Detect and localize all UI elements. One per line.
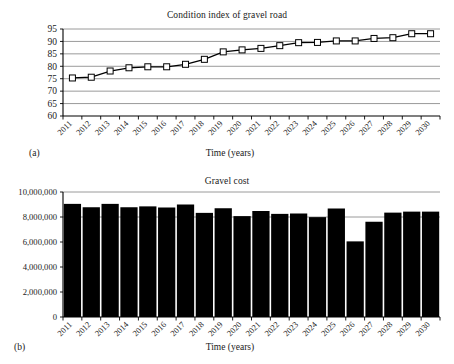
x-tick-label: 2018	[188, 119, 206, 137]
y-tick-label: 65	[48, 99, 58, 109]
bar	[252, 211, 269, 317]
x-tick-label: 2014	[112, 118, 131, 137]
x-tick-label: 2029	[395, 119, 413, 137]
bar	[196, 213, 213, 317]
x-axis-title-b: Time (years)	[150, 342, 310, 352]
bar	[347, 241, 364, 317]
x-tick-label: 2024	[301, 118, 320, 137]
x-tick-label: 2028	[376, 119, 394, 137]
data-point-marker	[69, 75, 75, 81]
panel-letter-a: (a)	[29, 148, 40, 158]
x-tick-label: 2020	[225, 119, 243, 137]
x-tick-label: 2016	[150, 119, 168, 137]
x-tick-label: 2026	[338, 119, 356, 137]
bar	[177, 205, 194, 318]
data-point-marker	[145, 64, 151, 70]
bar	[271, 214, 288, 317]
x-tick-label: 2027	[357, 320, 375, 338]
line-chart-plot: 6065707580859095201120122013201420152016…	[0, 0, 454, 170]
bar	[365, 222, 382, 317]
bar	[233, 216, 250, 317]
bar	[384, 213, 401, 317]
x-tick-label: 2017	[169, 320, 187, 338]
data-point-marker	[183, 61, 189, 67]
x-tick-label: 2025	[320, 119, 338, 137]
x-tick-label: 2026	[338, 320, 356, 338]
figure-a-condition-index: Condition index of gravel road 606570758…	[0, 0, 454, 170]
data-point-marker	[258, 45, 264, 51]
x-tick-label: 2016	[150, 320, 168, 338]
x-tick-label: 2024	[301, 319, 320, 338]
y-tick-label: 6,000,000	[23, 237, 57, 247]
x-tick-label: 2030	[414, 320, 432, 338]
bar	[403, 212, 420, 317]
y-tick-label: 10,000,000	[18, 187, 57, 197]
bar	[290, 214, 307, 318]
y-tick-label: 70	[48, 86, 58, 96]
data-point-marker	[220, 49, 226, 55]
x-tick-label: 2025	[320, 320, 338, 338]
data-point-marker	[88, 74, 94, 80]
bar	[328, 209, 345, 318]
data-point-marker	[428, 31, 434, 37]
panel-letter-b: (b)	[14, 342, 25, 352]
data-point-marker	[371, 35, 377, 41]
x-tick-label: 2021	[244, 119, 262, 137]
x-tick-label: 2017	[169, 119, 187, 137]
x-tick-label: 2014	[112, 319, 131, 338]
data-point-marker	[239, 47, 245, 53]
bar	[139, 206, 156, 317]
bar-chart-plot: 02,000,0004,000,0006,000,0008,000,00010,…	[0, 172, 454, 364]
bar	[83, 207, 100, 317]
x-tick-label: 2022	[263, 119, 281, 137]
x-tick-label: 2015	[131, 119, 149, 137]
x-tick-label: 2029	[395, 320, 413, 338]
x-tick-label: 2028	[376, 320, 394, 338]
x-tick-label: 2018	[188, 320, 206, 338]
bar	[309, 217, 326, 317]
bar	[102, 204, 119, 317]
x-tick-label: 2013	[93, 119, 111, 137]
data-point-marker	[333, 38, 339, 44]
data-point-marker	[164, 64, 170, 70]
x-tick-label: 2015	[131, 320, 149, 338]
y-tick-label: 60	[48, 111, 58, 121]
data-point-marker	[107, 68, 113, 74]
x-tick-label: 2027	[357, 119, 375, 137]
x-tick-label: 2021	[244, 320, 262, 338]
x-tick-label: 2013	[93, 320, 111, 338]
x-axis-title-a: Time (years)	[150, 148, 310, 158]
y-tick-label: 90	[48, 37, 58, 47]
data-point-marker	[126, 65, 132, 71]
data-point-marker	[352, 38, 358, 44]
x-tick-label: 2011	[56, 119, 74, 137]
data-point-marker	[201, 56, 207, 62]
y-tick-label: 95	[48, 24, 58, 34]
y-tick-label: 0	[53, 312, 57, 322]
y-tick-label: 8,000,000	[23, 212, 57, 222]
x-tick-label: 2023	[282, 320, 300, 338]
bar	[158, 208, 175, 318]
data-point-marker	[296, 40, 302, 46]
bar	[422, 212, 439, 317]
bar	[64, 204, 81, 317]
y-tick-label: 85	[48, 49, 58, 59]
y-tick-label: 4,000,000	[23, 262, 57, 272]
x-tick-label: 2023	[282, 119, 300, 137]
x-tick-label: 2019	[206, 119, 224, 137]
data-point-marker	[390, 35, 396, 41]
data-point-marker	[314, 39, 320, 45]
x-tick-label: 2020	[225, 320, 243, 338]
x-tick-label: 2022	[263, 320, 281, 338]
data-point-marker	[409, 31, 415, 37]
data-point-marker	[277, 43, 283, 49]
y-tick-label: 80	[48, 62, 58, 72]
x-tick-label: 2012	[74, 119, 92, 137]
x-tick-label: 2030	[414, 119, 432, 137]
bar	[215, 208, 232, 317]
figure-b-gravel-cost: Gravel cost 02,000,0004,000,0006,000,000…	[0, 172, 454, 364]
x-tick-label: 2012	[74, 320, 92, 338]
x-tick-label: 2019	[206, 320, 224, 338]
y-tick-label: 2,000,000	[23, 287, 57, 297]
bar	[120, 207, 137, 317]
